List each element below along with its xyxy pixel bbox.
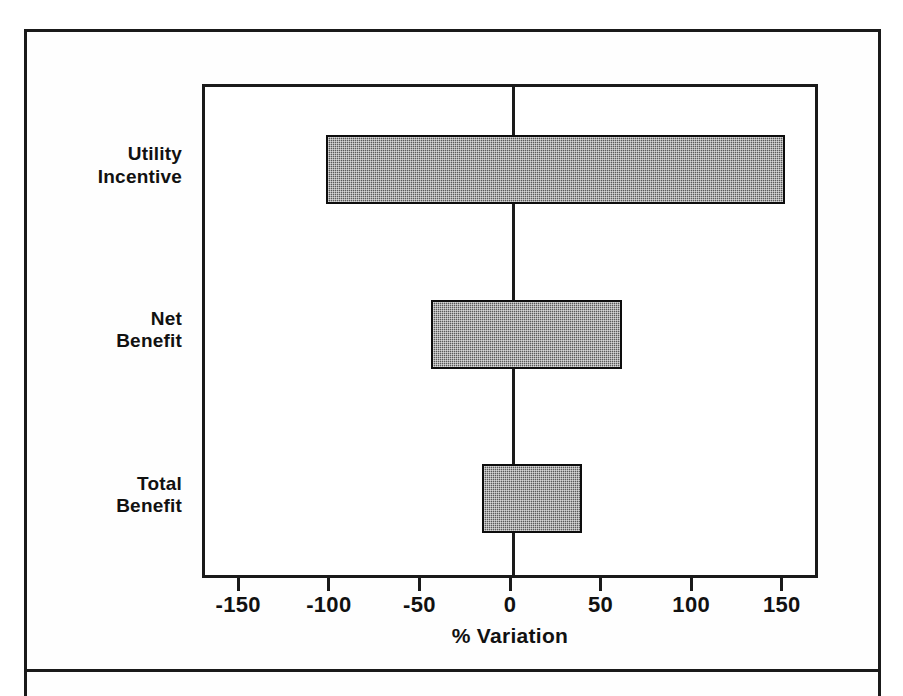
x-tick-mark	[418, 578, 421, 591]
x-tick-mark	[780, 578, 783, 591]
bar	[482, 464, 582, 533]
x-tick-label: 100	[672, 592, 710, 618]
category-label: Net Benefit	[116, 308, 182, 353]
bar	[431, 300, 621, 369]
x-tick-mark	[237, 578, 240, 591]
x-axis-title: % Variation	[202, 624, 818, 648]
category-label: Utility Incentive	[98, 143, 182, 188]
x-tick-label: -50	[403, 592, 436, 618]
x-tick-label: 150	[763, 592, 801, 618]
x-tick-mark	[509, 578, 512, 591]
category-label-group: Utility IncentiveNet BenefitTotal Benefi…	[20, 84, 182, 578]
bar	[326, 135, 784, 204]
x-tick-label: 50	[588, 592, 613, 618]
x-tick-label: -100	[306, 592, 351, 618]
plot-inner	[205, 87, 815, 575]
x-tick-label: 0	[504, 592, 517, 618]
figure-footer-rule	[24, 672, 881, 696]
x-tick-label: -150	[216, 592, 261, 618]
x-tick-mark	[599, 578, 602, 591]
plot-area	[202, 84, 818, 578]
x-tick-mark	[327, 578, 330, 591]
x-axis: -150-100-50050100150	[202, 578, 818, 624]
x-tick-mark	[690, 578, 693, 591]
category-label: Total Benefit	[116, 473, 182, 518]
